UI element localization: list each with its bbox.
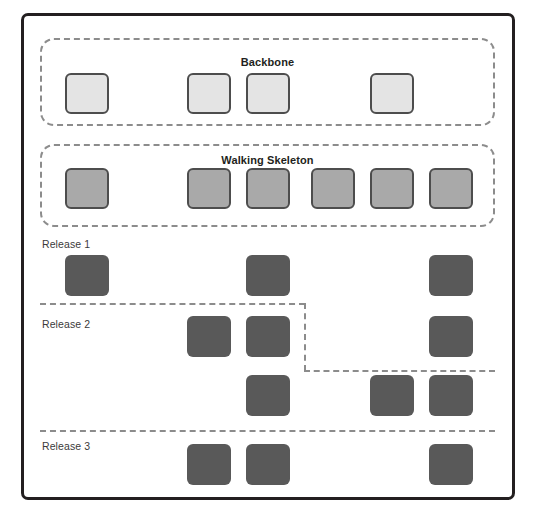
release-2-card[interactable] <box>246 375 290 416</box>
release-1-card[interactable] <box>246 255 290 296</box>
walking-skeleton-card[interactable] <box>65 168 109 209</box>
release-2-card[interactable] <box>429 316 473 357</box>
release-2-card[interactable] <box>370 375 414 416</box>
backbone-group-title: Backbone <box>42 56 493 68</box>
backbone-card[interactable] <box>370 73 414 114</box>
release-2-card[interactable] <box>429 375 473 416</box>
release-2-card[interactable] <box>246 316 290 357</box>
release-2-divider-top <box>40 303 305 305</box>
release-3-label: Release 3 <box>42 440 90 452</box>
release-3-divider <box>40 430 495 432</box>
release-3-card[interactable] <box>187 444 231 485</box>
walking-skeleton-card[interactable] <box>246 168 290 209</box>
release-2-divider-step <box>304 303 306 371</box>
walking-skeleton-card[interactable] <box>429 168 473 209</box>
release-1-label: Release 1 <box>42 238 90 250</box>
release-2-divider-bottom <box>304 370 495 372</box>
release-1-card[interactable] <box>65 255 109 296</box>
diagram-frame: Backbone Walking Skeleton Release 1 Rele… <box>21 13 515 500</box>
release-2-label: Release 2 <box>42 318 90 330</box>
walking-skeleton-card[interactable] <box>311 168 355 209</box>
walking-skeleton-card[interactable] <box>370 168 414 209</box>
walking-skeleton-card[interactable] <box>187 168 231 209</box>
release-2-card[interactable] <box>187 316 231 357</box>
backbone-card[interactable] <box>65 73 109 114</box>
story-map-diagram: Backbone Walking Skeleton Release 1 Rele… <box>0 0 538 529</box>
release-3-card[interactable] <box>246 444 290 485</box>
backbone-card[interactable] <box>187 73 231 114</box>
release-1-card[interactable] <box>429 255 473 296</box>
backbone-card[interactable] <box>246 73 290 114</box>
walking-skeleton-group-title: Walking Skeleton <box>42 154 493 166</box>
release-3-card[interactable] <box>429 444 473 485</box>
